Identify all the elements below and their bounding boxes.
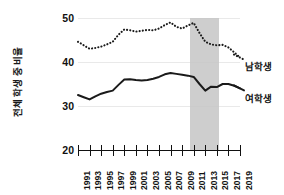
- x-tick-label-1991: 1991: [82, 171, 92, 190]
- x-tick-label-2013: 2013: [209, 171, 219, 190]
- series-path-여학생: [78, 73, 240, 99]
- x-tick-1995: [101, 145, 102, 156]
- x-tick-1993: [90, 145, 91, 156]
- x-tick-2009: [182, 145, 183, 156]
- x-tick-label-2011: 2011: [197, 172, 207, 190]
- x-tick-label-2015: 2015: [220, 171, 230, 190]
- y-tick-40: 40: [52, 57, 74, 67]
- x-tick-1991: [78, 145, 79, 156]
- x-tick-label-2005: 2005: [163, 171, 173, 190]
- x-tick-1999: [124, 145, 125, 156]
- x-tick-label-2017: 2017: [232, 171, 242, 190]
- y-axis-label: 전체 학생 중 비율: [10, 17, 24, 147]
- x-tick-label-2007: 2007: [174, 171, 184, 190]
- series-path-남학생: [78, 22, 240, 57]
- legend-leader-여학생: [234, 85, 244, 90]
- x-tick-label-2001: 2001: [139, 171, 149, 190]
- series-lines: [78, 18, 240, 150]
- x-tick-label-2009: 2009: [186, 171, 196, 190]
- x-tick-label-1997: 1997: [116, 171, 126, 190]
- plot-area: [78, 18, 240, 150]
- x-tick-label-2003: 2003: [151, 171, 161, 190]
- x-tick-1997: [113, 145, 114, 156]
- x-tick-2015: [217, 145, 218, 156]
- x-tick-label-1995: 1995: [105, 171, 115, 190]
- y-tick-50: 50: [52, 13, 74, 23]
- x-tick-2007: [171, 145, 172, 156]
- y-tick-20: 20: [52, 145, 74, 155]
- x-tick-label-1993: 1993: [93, 171, 103, 190]
- x-tick-2013: [205, 145, 206, 156]
- x-tick-2017: [228, 145, 229, 156]
- y-tick-30: 30: [52, 101, 74, 111]
- chart-container: 전체 학생 중 비율 50 40 30 20 19911993199519971…: [0, 0, 284, 195]
- x-tick-2005: [159, 145, 160, 156]
- x-tick-2019: [240, 145, 241, 156]
- legend-label-male: 남학생: [245, 59, 272, 73]
- legend-label-female: 여학생: [245, 91, 272, 105]
- x-tick-label-1999: 1999: [128, 171, 138, 190]
- x-tick-2011: [194, 145, 195, 156]
- x-tick-2003: [147, 145, 148, 156]
- x-axis-tick-labels: 1991199319951997199920012003200520072009…: [0, 158, 284, 195]
- x-tick-label-2019: 2019: [244, 171, 254, 190]
- x-tick-2001: [136, 145, 137, 156]
